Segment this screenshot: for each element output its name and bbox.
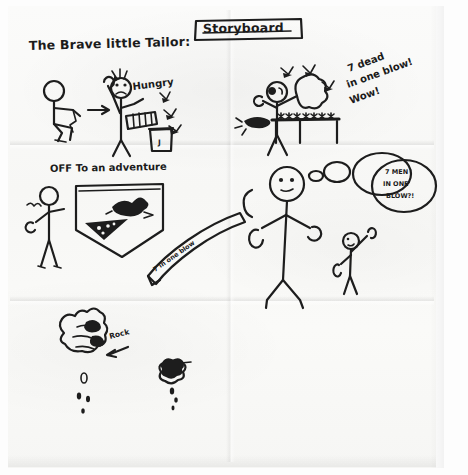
rock-in-hand-lower: [90, 336, 104, 347]
giant-arm-right: [286, 215, 310, 228]
cheese-squeeze-line: [181, 362, 191, 363]
rock-arrow-shaft: [108, 347, 128, 355]
giant-eye-left: [279, 178, 283, 182]
panel-2-table: [235, 113, 339, 143]
thought-dot-medium: [324, 162, 350, 182]
giant-leg-left: [266, 280, 283, 308]
boxed-title: Storyboard: [203, 20, 284, 36]
dead-fly-5: [311, 113, 317, 119]
panel-2-caption-group: 7 dead in one blow! Wow!: [345, 50, 414, 105]
fly-1: [114, 76, 120, 82]
giant-torso: [283, 201, 287, 280]
adventure-tailor-legs: [41, 240, 57, 266]
standing-tailor-frown: [116, 92, 126, 94]
seated-tailor-arm: [54, 108, 80, 116]
thought-dot-small: [309, 171, 323, 181]
adventure-tailor-hand-left: [26, 222, 35, 232]
small-bird-icon: [27, 203, 41, 206]
small-tailor-hand-down: [333, 264, 341, 276]
belt-banner-text: 7 in one blow: [152, 239, 197, 274]
flying-fly-1-wings: [281, 67, 293, 75]
standing-tailor-arm-raised: [108, 86, 120, 113]
cheese-slice-body: [85, 219, 128, 240]
panel-3-tailor: [26, 187, 64, 268]
panel-3-satchel: [76, 184, 163, 257]
jam-blob-outline: [295, 74, 327, 108]
thought-line-2: IN ONE: [383, 180, 409, 188]
bird-beak: [106, 211, 112, 214]
swatting-tailor-face-line: [279, 88, 282, 94]
panel-2-jam-blob: [295, 74, 327, 108]
drip-left-4: [81, 408, 85, 414]
swatting-tailor-legs: [268, 135, 287, 155]
storyboard-drawing: The Brave little Tailor: Storyboard: [0, 0, 468, 475]
panel-4-small-tailor: [333, 228, 376, 294]
story-title: The Brave little Tailor:: [29, 34, 191, 53]
boxed-title-group: Storyboard: [195, 19, 302, 40]
satchel-bird: [106, 197, 153, 218]
giant-hand-knuckle-3: [76, 346, 94, 349]
drip-right-3: [172, 406, 175, 411]
standing-tailor-legs: [113, 140, 130, 156]
dead-fly-7: [328, 113, 334, 119]
panel-5-giant-hand: [60, 309, 107, 353]
drip-left-3: [86, 396, 90, 402]
jam-smear-splatter: [235, 118, 246, 135]
flying-fly-2-wings: [303, 65, 315, 74]
swatting-tailor-eye: [268, 87, 276, 95]
small-tailor-hand-raised: [368, 228, 376, 238]
satchel-inner-line: [79, 189, 160, 191]
panel-3-caption: OFF To an adventure: [50, 161, 167, 174]
tailor-hand-fill: [161, 359, 184, 379]
panel-5-left-drips: [77, 373, 90, 414]
standing-tailor-eye-right: [123, 83, 126, 86]
panel-1-caption-hungry: Hungry: [132, 76, 175, 92]
dead-fly-6: [319, 113, 325, 119]
giant-arm-left: [262, 215, 286, 228]
giant-hand-left: [249, 230, 263, 248]
cheese-hole-4: [113, 223, 116, 226]
cheese-hole-1: [97, 226, 101, 230]
adventure-tailor-feet: [38, 266, 61, 268]
swatting-tailor-swatter-loop: [254, 96, 263, 106]
standing-tailor-eye-left: [115, 83, 118, 86]
seated-tailor-head: [44, 81, 64, 101]
fly-3-wings: [164, 109, 176, 117]
giant-eye-right: [290, 178, 294, 182]
dead-fly-2: [286, 113, 292, 119]
satchel-cheese-slice: [85, 219, 128, 240]
panel-2-flies-flying: [281, 65, 334, 92]
giant-mouth: [281, 189, 293, 191]
story-title-group: The Brave little Tailor:: [29, 34, 191, 53]
small-tailor-eye: [347, 238, 350, 241]
cheese-hole-3: [101, 231, 104, 234]
adventure-tailor-arm-right: [49, 209, 64, 212]
panel-1-transition-arrow: [88, 106, 109, 114]
drip-left-2: [77, 393, 81, 400]
small-tailor-smile: [348, 244, 354, 246]
panel-1-seated-tailor: [44, 81, 80, 142]
jam-smear: [244, 117, 270, 128]
panel-5-rock-label-group: Rock: [107, 327, 131, 357]
bird-tail: [144, 212, 153, 218]
rock-label: Rock: [108, 327, 131, 341]
panel-4-giant: [244, 167, 321, 308]
cheese-hole-2: [106, 224, 110, 228]
drip-right-1: [170, 387, 174, 394]
panel-5-tailor-hand: [159, 359, 191, 411]
dead-fly-4: [303, 113, 309, 119]
screenshot-canvas: The Brave little Tailor: Storyboard: [0, 0, 468, 475]
giant-head: [270, 167, 304, 201]
adventure-tailor-head: [40, 187, 58, 205]
panel-1-jam-jar: J: [149, 128, 173, 151]
giant-leg-right: [283, 280, 303, 308]
jam-jar-lid: [149, 128, 173, 129]
bird-body: [112, 197, 149, 216]
standing-tailor-arm-bread: [121, 99, 143, 108]
drip-right-2: [174, 397, 178, 403]
thought-line-1: 7 MEN: [385, 168, 408, 176]
thought-line-3: BLOW?!: [386, 192, 414, 200]
seated-tailor-foot: [55, 140, 66, 142]
panel-4-thought-bubble: 7 MEN IN ONE BLOW?!: [309, 153, 436, 212]
background-curve: [244, 190, 252, 217]
